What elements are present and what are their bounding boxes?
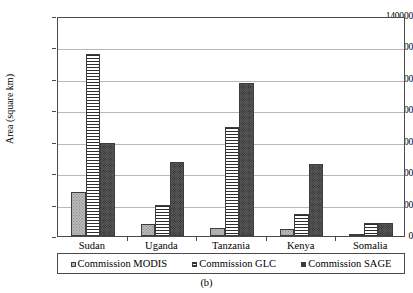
x-axis-tick-mark — [266, 237, 267, 241]
x-axis-tick-label: Kenya — [266, 240, 336, 251]
y-axis-tick-mark — [52, 174, 56, 175]
bar — [349, 234, 364, 236]
bar — [364, 223, 379, 236]
plot-area — [57, 17, 405, 237]
bar — [100, 143, 115, 236]
legend-entry-modis: Commission MODIS — [71, 258, 168, 269]
bar — [239, 83, 254, 236]
bar — [141, 224, 156, 236]
bar — [294, 214, 309, 236]
legend-label: Commission GLC — [199, 258, 276, 269]
y-axis-title: Area (square km) — [5, 61, 15, 157]
bar — [280, 229, 295, 236]
x-axis-tick-mark — [196, 237, 197, 241]
x-axis-tick-mark — [127, 237, 128, 241]
y-axis-tick-mark — [52, 17, 56, 18]
legend-label: Commission SAGE — [308, 258, 391, 269]
legend-swatch-icon — [192, 262, 197, 267]
bar — [86, 54, 101, 236]
bar — [210, 228, 225, 236]
bar — [378, 223, 393, 236]
legend-swatch-icon — [301, 262, 306, 267]
x-axis-tick-label: Somalia — [335, 240, 405, 251]
gridline — [58, 49, 404, 50]
x-axis-tick-label: Uganda — [127, 240, 197, 251]
figure-caption: (b) — [0, 277, 413, 288]
bar — [309, 164, 324, 236]
x-axis-tick-label: Tanzania — [196, 240, 266, 251]
gridline — [58, 81, 404, 82]
legend-label: Commission MODIS — [78, 258, 168, 269]
bar — [155, 205, 170, 236]
x-axis-tick-mark — [335, 237, 336, 241]
legend-entry-sage: Commission SAGE — [301, 258, 391, 269]
y-axis-tick-mark — [52, 48, 56, 49]
bar — [225, 127, 240, 236]
y-axis-tick-mark — [52, 111, 56, 112]
x-axis-tick-label: Sudan — [57, 240, 127, 251]
legend-swatch-icon — [71, 262, 76, 267]
legend-entry-glc: Commission GLC — [192, 258, 276, 269]
y-axis-tick-mark — [52, 80, 56, 81]
gridline — [58, 112, 404, 113]
bar — [71, 192, 86, 236]
bar-chart-figure: Area (square km) 02000040000600008000010… — [0, 0, 413, 293]
y-axis-tick-mark — [52, 237, 56, 238]
y-axis-tick-mark — [52, 143, 56, 144]
y-axis-tick-mark — [52, 206, 56, 207]
chart-legend: Commission MODISCommission GLCCommission… — [57, 253, 405, 274]
bar — [170, 162, 185, 236]
